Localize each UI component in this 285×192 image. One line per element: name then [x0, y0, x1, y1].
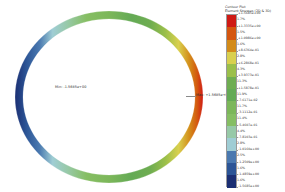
legend-percent-label: 1.5%: [237, 31, 245, 34]
color-band[interactable]: [227, 77, 236, 89]
color-band[interactable]: [227, 101, 236, 113]
legend-percent-label: 1.6%: [237, 179, 245, 182]
tick-dash-icon: [236, 113, 238, 114]
legend-value-label: +6.2868e-01: [238, 62, 259, 65]
legend-value-label: -3.1112e-01: [238, 111, 257, 114]
tick-dash-icon: [236, 76, 238, 77]
tick-dash-icon: [236, 162, 238, 163]
contour-legend[interactable]: Contour Plot Element Stresses (2D & 3D) …: [224, 5, 284, 188]
legend-value-label: -1.4859e+00: [238, 173, 259, 176]
legend-tick-labels: +1.5685e+001.7%+1.3335e+001.5%+1.0986e+0…: [238, 14, 284, 187]
tick-dash-icon: [236, 26, 238, 27]
legend-percent-label: 11.3%: [237, 80, 247, 83]
max-leader-line: [186, 96, 196, 97]
legend-value-label: -5.4607e-01: [238, 124, 257, 127]
legend-percent-label: 11.7%: [237, 105, 247, 108]
legend-value-label: +1.0986e+00: [238, 37, 261, 40]
tick-dash-icon: [236, 63, 238, 64]
legend-value-label: +1.3335e+00: [238, 25, 261, 28]
legend-body: +1.5685e+001.7%+1.3335e+001.5%+1.0986e+0…: [225, 14, 284, 188]
legend-value-label: -7.6171e-02: [238, 99, 257, 102]
color-band[interactable]: [227, 89, 236, 101]
color-band[interactable]: [227, 138, 236, 150]
min-annotation: Min: -1.5685e+00: [55, 86, 86, 89]
ring-inner-edge: [23, 19, 195, 175]
tick-dash-icon: [236, 88, 238, 89]
legend-percent-label: 11.4%: [237, 117, 247, 120]
tick-dash-icon: [236, 137, 238, 138]
tick-dash-icon: [236, 174, 238, 175]
legend-percent-label: 11.9%: [237, 93, 247, 96]
color-band[interactable]: [227, 151, 236, 163]
ring-svg: [12, 8, 206, 186]
color-band[interactable]: [227, 52, 236, 64]
color-band[interactable]: [227, 163, 236, 175]
legend-percent-label: 4.4%: [237, 130, 245, 133]
legend-value-label: +8.6364e-01: [238, 49, 259, 52]
tick-dash-icon: [236, 125, 238, 126]
legend-value-label: -1.0160e+00: [238, 148, 259, 151]
tick-dash-icon: [236, 150, 238, 151]
legend-percent-label: 2.8%: [237, 55, 245, 58]
tick-dash-icon: [236, 39, 238, 40]
legend-percent-label: 4.3%: [237, 68, 245, 71]
tick-dash-icon: [236, 14, 238, 15]
legend-value-label: -1.2509e+00: [238, 161, 259, 164]
legend-percent-label: 1.6%: [237, 43, 245, 46]
ring-model[interactable]: [12, 8, 206, 186]
tick-dash-icon: [236, 51, 238, 52]
color-band[interactable]: [227, 40, 236, 52]
plot-viewport: Min: -1.5685e+00 Max: +1.5685e+00 Contou…: [0, 0, 285, 192]
color-band[interactable]: [227, 15, 236, 27]
ring-band: [15, 11, 203, 183]
color-band[interactable]: [227, 114, 236, 126]
legend-percent-label: 2.5%: [237, 154, 245, 157]
legend-value-label: +1.5878e-01: [238, 87, 259, 90]
legend-percent-label: 2.8%: [237, 142, 245, 145]
legend-percent-label: 1.7%: [237, 18, 245, 21]
legend-value-label: +3.9373e-01: [238, 74, 259, 77]
tick-dash-icon: [236, 187, 238, 188]
legend-value-label: -1.5685e+00: [238, 185, 259, 188]
color-band[interactable]: [227, 126, 236, 138]
legend-value-label: +1.5685e+00: [238, 12, 261, 15]
legend-percent-label: 1.6%: [237, 167, 245, 170]
color-band[interactable]: [227, 175, 236, 187]
color-band[interactable]: [227, 64, 236, 76]
tick-dash-icon: [236, 100, 238, 101]
legend-value-label: -7.8103e-01: [238, 136, 257, 139]
color-band[interactable]: [227, 27, 236, 39]
